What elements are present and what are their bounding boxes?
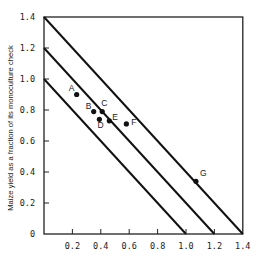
y-tick-label: 0.8	[20, 105, 35, 115]
point-label-c: C	[101, 98, 107, 108]
y-tick-label: 1.4	[20, 12, 35, 22]
reference-lines	[44, 17, 243, 234]
data-point-f	[124, 121, 129, 126]
x-tick-label: 1.2	[207, 241, 222, 251]
point-label-g: G	[200, 168, 207, 178]
x-tick-label: 0.6	[122, 241, 137, 251]
scatter-chart: 0.20.40.60.81.01.21.4 00.20.40.60.81.01.…	[0, 0, 255, 257]
y-tick-label: 0	[30, 229, 35, 239]
iso-line-1-4	[44, 17, 243, 234]
data-point-g	[193, 179, 198, 184]
y-axis-label: Maize yield as a fraction of its monocul…	[6, 45, 15, 211]
y-tick-label: 1.0	[20, 74, 35, 84]
point-label-f: F	[131, 117, 136, 127]
y-tick-label: 0.4	[20, 167, 35, 177]
data-point-b	[91, 109, 96, 114]
x-tick-label: 1.0	[178, 241, 193, 251]
data-point-a	[74, 92, 79, 97]
y-tick-label: 0.2	[20, 198, 35, 208]
x-tick-label: 0.2	[65, 241, 80, 251]
iso-line-1	[44, 79, 186, 234]
point-label-d: D	[97, 120, 103, 130]
x-tick-label: 0.8	[150, 241, 165, 251]
x-tick-label: 0.4	[93, 241, 108, 251]
iso-line-1-2	[44, 48, 214, 234]
y-tick-label: 0.6	[20, 136, 35, 146]
point-label-e: E	[112, 112, 118, 122]
point-label-a: A	[69, 83, 75, 93]
data-point-c	[100, 109, 105, 114]
x-tick-label: 1.4	[235, 241, 250, 251]
x-axis-ticks: 0.20.40.60.81.01.21.4	[65, 229, 251, 251]
point-label-b: B	[86, 101, 92, 111]
y-tick-label: 1.2	[20, 43, 35, 53]
data-point-e	[107, 118, 112, 123]
